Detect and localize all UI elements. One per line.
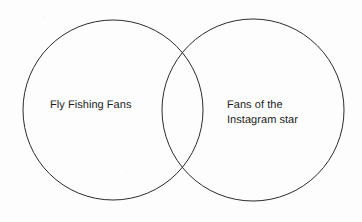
venn-label-right-line-2: Instagram star [227, 114, 298, 126]
venn-label-left: Fly Fishing Fans [50, 98, 132, 113]
venn-diagram-canvas: Fly Fishing Fans Fans of theInstagram st… [0, 0, 362, 222]
venn-label-right: Fans of theInstagram star [227, 98, 298, 127]
venn-label-right-line-1: Fans of the [227, 99, 283, 111]
